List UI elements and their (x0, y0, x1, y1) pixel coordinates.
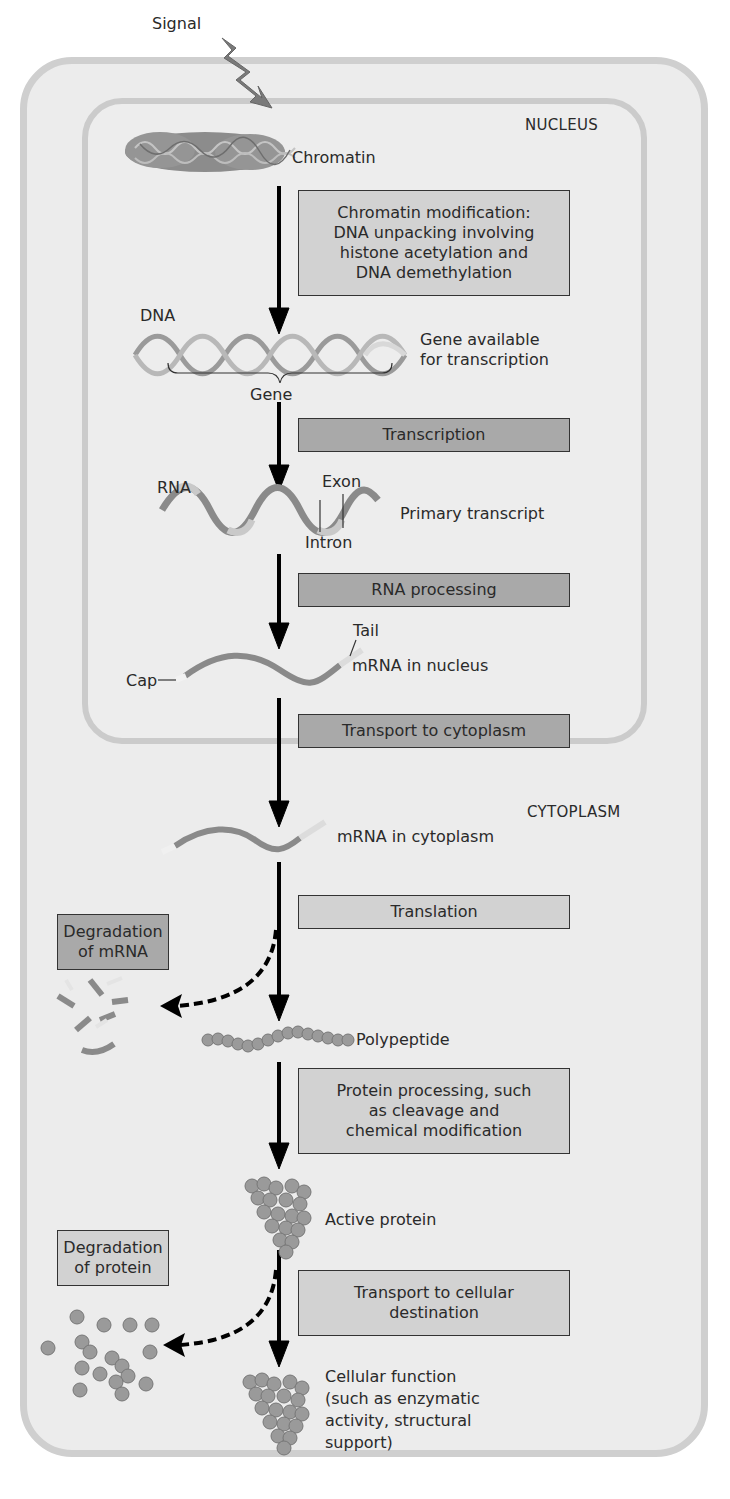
exon-label: Exon (322, 472, 361, 492)
rna-label: RNA (157, 478, 191, 498)
signal-label: Signal (152, 14, 201, 34)
degradation-arrows (160, 930, 276, 1357)
step-degradation-mrna: Degradation of mRNA (57, 914, 169, 970)
tail-label: Tail (353, 621, 379, 641)
step-transport-destination-text: Transport to cellular destination (354, 1283, 514, 1323)
step-degradation-protein-text: Degradation of protein (63, 1238, 162, 1278)
amino-acids-icon (41, 1310, 159, 1401)
step-degradation-protein: Degradation of protein (57, 1230, 169, 1286)
primary-transcript-label: Primary transcript (400, 504, 544, 524)
active-protein-label: Active protein (325, 1210, 436, 1230)
cytoplasm-label: CYTOPLASM (527, 803, 621, 821)
step-transport-destination: Transport to cellular destination (298, 1270, 570, 1336)
chromatin-icon (125, 132, 295, 172)
signal-bolt-icon (222, 38, 272, 108)
nucleus-label: NUCLEUS (525, 116, 598, 134)
mrna-cytoplasm-label: mRNA in cytoplasm (337, 827, 494, 847)
chromatin-label: Chromatin (292, 148, 376, 168)
step-transport-cytoplasm: Transport to cytoplasm (298, 714, 570, 748)
step-rna-processing-text: RNA processing (371, 580, 496, 600)
step-transport-cytoplasm-text: Transport to cytoplasm (342, 721, 526, 741)
step-transcription: Transcription (298, 418, 570, 452)
dna-label: DNA (140, 306, 175, 326)
primary-transcript-icon (162, 486, 378, 532)
cellular-function-label: Cellular function (such as enzymatic act… (325, 1366, 480, 1454)
step-translation: Translation (298, 895, 570, 929)
polypeptide-icon (202, 1026, 354, 1052)
gene-label: Gene (250, 385, 292, 405)
active-protein-icon (245, 1177, 311, 1259)
mrna-fragments-icon (58, 978, 128, 1052)
cap-label: Cap (126, 671, 157, 691)
mrna-cytoplasm-icon (162, 822, 325, 852)
cellular-function-protein-icon (243, 1373, 309, 1455)
step-transcription-text: Transcription (383, 425, 486, 445)
gene-available-label: Gene available for transcription (420, 330, 549, 370)
dna-helix-icon (135, 336, 405, 374)
mrna-nucleus-icon (176, 650, 362, 683)
step-chromatin-modification-text: Chromatin modification: DNA unpacking in… (334, 203, 535, 283)
step-protein-processing-text: Protein processing, such as cleavage and… (337, 1081, 532, 1141)
step-protein-processing: Protein processing, such as cleavage and… (298, 1068, 570, 1154)
mrna-nucleus-label: mRNA in nucleus (352, 656, 488, 676)
polypeptide-label: Polypeptide (356, 1030, 450, 1050)
step-degradation-mrna-text: Degradation of mRNA (63, 922, 162, 962)
step-chromatin-modification: Chromatin modification: DNA unpacking in… (298, 190, 570, 296)
intron-label: Intron (305, 533, 352, 553)
step-rna-processing: RNA processing (298, 573, 570, 607)
step-translation-text: Translation (390, 902, 477, 922)
